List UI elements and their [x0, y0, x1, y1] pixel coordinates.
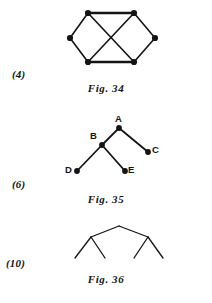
vertex-label-b: B: [90, 131, 97, 141]
edge-left-to-bottom-left: [70, 38, 88, 62]
edge-left-leaf-2: [91, 237, 105, 258]
vertex-bottom-left: [85, 59, 91, 65]
figure-36-block: (10) Fig. 36: [0, 215, 212, 303]
figure-34-vertices: [67, 10, 158, 65]
vertex-left: [67, 35, 73, 41]
edge-a-b: [102, 128, 119, 145]
figure-34-number-label: (4): [12, 68, 25, 80]
figure-36-number-label: (10): [6, 257, 25, 269]
vertex-top-right: [131, 10, 137, 16]
figure-sheet: (4) Fig. 34 A B C D E (6) Fig. 35: [0, 0, 212, 303]
vertex-label-e: E: [128, 165, 134, 175]
vertex-b: [99, 142, 105, 148]
edge-top-left-to-left: [70, 13, 88, 38]
figure-35-vertices: [74, 125, 151, 174]
figure-36-caption: Fig. 36: [0, 273, 212, 285]
edge-right-to-top-right: [134, 13, 155, 38]
edge-bottom-right-to-right: [134, 38, 155, 62]
edge-a-c: [119, 128, 148, 152]
vertex-label-c: C: [152, 145, 159, 155]
vertex-label-a: A: [115, 114, 122, 124]
edge-apex-left: [91, 226, 119, 237]
edge-right-leaf-4: [148, 237, 163, 258]
vertex-top-left: [85, 10, 91, 16]
edge-left-leaf-1: [75, 237, 91, 258]
vertex-label-d: D: [65, 165, 72, 175]
vertex-d: [74, 168, 80, 174]
figure-34-caption: Fig. 34: [0, 82, 212, 94]
figure-35-number-label: (6): [12, 178, 25, 190]
figure-34-block: (4) Fig. 34: [0, 0, 212, 105]
edge-right-leaf-3: [134, 237, 148, 258]
vertex-bottom-right: [131, 59, 137, 65]
edge-apex-right: [119, 226, 148, 237]
figure-35-caption: Fig. 35: [0, 193, 212, 205]
vertex-c: [145, 149, 151, 155]
edge-b-e: [102, 145, 125, 171]
vertex-right: [152, 35, 158, 41]
vertex-a: [116, 125, 122, 131]
figure-36-diagram: [0, 215, 212, 303]
edge-b-d: [77, 145, 102, 171]
figure-35-block: A B C D E (6) Fig. 35: [0, 105, 212, 215]
